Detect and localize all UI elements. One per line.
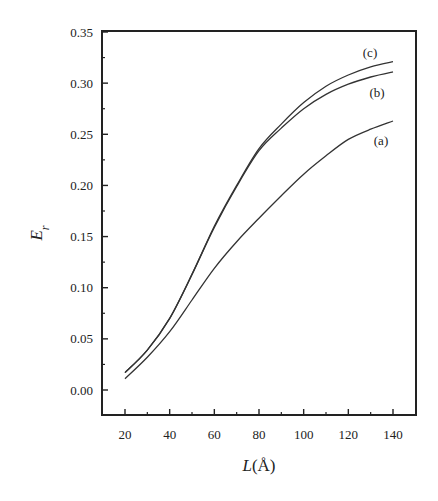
series-line-b	[125, 72, 393, 373]
series-label-c: (c)	[363, 45, 377, 60]
y-tick-label: 0.25	[70, 127, 93, 142]
y-tick-label: 0.10	[70, 280, 93, 295]
x-tick-label: 40	[163, 427, 176, 442]
series-line-a	[125, 121, 393, 379]
y-tick-label: 0.20	[70, 178, 93, 193]
data-series	[125, 62, 393, 379]
series-label-b: (b)	[369, 85, 384, 100]
x-tick-label: 20	[119, 427, 132, 442]
y-tick-label: 0.00	[70, 383, 93, 398]
line-chart: 0.000.050.100.150.200.250.300.35 2040608…	[0, 0, 438, 501]
y-tick-label: 0.05	[70, 331, 93, 346]
x-tick-label: 140	[383, 427, 403, 442]
series-line-c	[125, 62, 393, 373]
y-tick-label: 0.30	[70, 76, 93, 91]
x-axis-label: L(Å)	[241, 456, 275, 475]
y-tick-label: 0.15	[70, 229, 93, 244]
y-axis-label: Er	[27, 225, 52, 241]
series-labels: (a)(b)(c)	[363, 45, 388, 148]
x-axis-ticks: 20406080100120140	[119, 409, 403, 442]
x-tick-label: 60	[208, 427, 221, 442]
x-tick-label: 80	[253, 427, 266, 442]
y-tick-label: 0.35	[70, 25, 93, 40]
x-tick-label: 120	[339, 427, 359, 442]
x-tick-label: 100	[294, 427, 314, 442]
series-label-a: (a)	[374, 133, 388, 148]
